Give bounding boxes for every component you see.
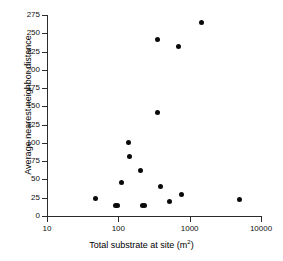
data-point xyxy=(93,196,98,201)
data-point xyxy=(142,203,147,208)
data-point xyxy=(155,110,160,115)
x-axis-title: Total substrate at site (m2) xyxy=(0,240,283,251)
data-point xyxy=(199,20,204,25)
data-point xyxy=(237,197,242,202)
y-axis-title: Average nearest neighbor distance xyxy=(23,5,33,205)
scatter-plot-figure: 0255075100125150175200225250275 10100100… xyxy=(0,0,283,261)
data-point xyxy=(155,37,160,42)
data-point xyxy=(126,140,131,145)
data-point xyxy=(119,180,124,185)
data-point xyxy=(167,199,172,204)
data-points-layer xyxy=(0,0,283,261)
data-point xyxy=(158,184,163,189)
x-axis-title-close: ) xyxy=(191,240,194,250)
x-axis-title-base: Total substrate at site (m xyxy=(89,240,187,250)
data-point xyxy=(179,192,184,197)
data-point xyxy=(138,168,143,173)
data-point xyxy=(127,154,132,159)
data-point xyxy=(176,44,181,49)
data-point xyxy=(115,203,120,208)
